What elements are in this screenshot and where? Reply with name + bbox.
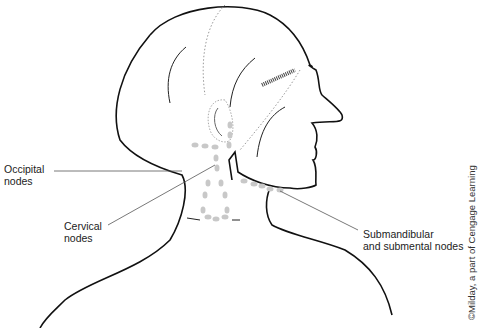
- diagram-canvas: Occipital nodes Cervical nodes Submandib…: [0, 0, 482, 328]
- occipital-label-line2: nodes: [4, 175, 44, 187]
- scalp-dotted-line: [203, 5, 225, 95]
- copyright-credit: ©Milday, a part of Cengage Learning: [466, 165, 477, 320]
- cervical-label-line2: nodes: [64, 232, 102, 244]
- back-of-head-outline: [40, 35, 185, 328]
- occipital-label-line1: Occipital: [4, 163, 44, 175]
- occipital-label: Occipital nodes: [4, 163, 44, 187]
- head-outline: [150, 7, 342, 189]
- submandibular-label-line1: Submandibular: [363, 228, 463, 240]
- submandibular-label-line2: and submental nodes: [363, 240, 463, 252]
- head-neck-illustration: [0, 0, 482, 328]
- submandibular-label: Submandibular and submental nodes: [363, 228, 463, 252]
- cervical-label-line1: Cervical: [64, 220, 102, 232]
- eyebrow-icon: [262, 70, 295, 85]
- cervical-label: Cervical nodes: [64, 220, 102, 244]
